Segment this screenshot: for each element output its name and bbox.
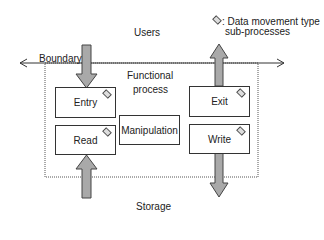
- functional-process-label-2: process: [133, 84, 168, 95]
- users-label: Users: [134, 27, 160, 38]
- write-label: Write: [208, 134, 231, 145]
- entry-label: Entry: [74, 97, 97, 108]
- manipulation-box: Manipulation: [119, 115, 180, 145]
- boundary-label: Boundary: [39, 53, 82, 64]
- exit-label: Exit: [211, 96, 228, 107]
- functional-process-label-1: Functional: [127, 70, 173, 81]
- storage-label: Storage: [136, 201, 171, 212]
- read-label: Read: [74, 135, 98, 146]
- legend-text-line2: sub-processes: [225, 26, 290, 37]
- manipulation-label: Manipulation: [121, 125, 178, 136]
